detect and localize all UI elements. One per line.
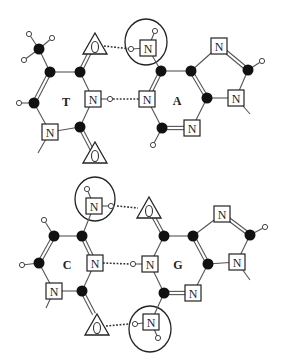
nitrogen-atom-icon: N bbox=[140, 40, 156, 56]
nitrogen-symbol: N bbox=[90, 200, 99, 214]
hydrogen-atom-icon bbox=[128, 46, 133, 51]
hydrogen-atom-icon bbox=[259, 58, 264, 63]
carbon-atom-icon bbox=[75, 67, 86, 78]
carbon-atom-icon bbox=[77, 286, 88, 297]
nitrogen-symbol: N bbox=[91, 257, 100, 271]
nitrogen-symbol: N bbox=[215, 40, 224, 54]
hydrogen-atom-icon bbox=[21, 57, 26, 62]
nitrogen-symbol: N bbox=[233, 256, 242, 270]
carbon-atom-icon bbox=[45, 67, 56, 78]
oxygen-triangle bbox=[137, 197, 161, 218]
base-labels: TACG bbox=[62, 94, 183, 272]
hydrogen-bond-dotted bbox=[104, 46, 131, 49]
hydrogen-atom-icon bbox=[49, 35, 54, 40]
hydrogen-atom-icon bbox=[262, 224, 267, 229]
base-label-T: T bbox=[62, 95, 70, 109]
carbon-atom-icon bbox=[188, 231, 199, 242]
carbon-atom-icon bbox=[157, 123, 168, 134]
carbon-atom-icon bbox=[245, 230, 256, 241]
nitrogen-atom-icon: N bbox=[184, 120, 200, 136]
base-pair-diagram: NNNNNNNNNNNNNNN TACG bbox=[0, 0, 285, 362]
nitrogen-symbol: N bbox=[218, 208, 227, 222]
nitrogen-atom-icon: N bbox=[211, 38, 227, 54]
hydrogen-bond-dotted bbox=[103, 263, 130, 264]
hydrogen-atom-icon bbox=[152, 28, 157, 33]
nitrogen-atom-icon: N bbox=[185, 285, 201, 301]
carbon-atom-icon bbox=[156, 66, 167, 77]
oxygen-triangle bbox=[83, 142, 107, 163]
carbon-atom-icon bbox=[34, 44, 45, 55]
nitrogen-atom-icon: N bbox=[214, 206, 230, 222]
hydrogen-bonds bbox=[103, 46, 140, 326]
carbon-atom-icon bbox=[186, 66, 197, 77]
hydrogen-atom-icon bbox=[41, 217, 46, 222]
nitrogen-atom-icon: N bbox=[46, 283, 62, 299]
hydrogen-atom-icon bbox=[155, 335, 160, 340]
nitrogen-symbol: N bbox=[50, 285, 59, 299]
carbon-atom-icon bbox=[29, 98, 40, 109]
nitrogen-symbol: N bbox=[89, 93, 98, 107]
nitrogen-symbol: N bbox=[189, 287, 198, 301]
nitrogen-atom-icon: N bbox=[42, 124, 58, 140]
base-label-A: A bbox=[173, 94, 182, 108]
nitrogen-symbol: N bbox=[146, 258, 155, 272]
carbon-atom-icon bbox=[75, 122, 86, 133]
nitrogen-atom-icon: N bbox=[85, 91, 101, 107]
nitrogen-symbol: N bbox=[188, 122, 197, 136]
base-label-C: C bbox=[63, 258, 72, 272]
hydrogen-bond-dotted bbox=[117, 206, 138, 208]
hydrogen-atom-icon bbox=[26, 31, 31, 36]
nitrogen-atom-icon: N bbox=[86, 198, 102, 214]
hydrogen-atom-icon bbox=[150, 142, 155, 147]
carbon-atom-icon bbox=[77, 231, 88, 242]
carbon-atom-icon bbox=[203, 259, 214, 270]
nitrogen-symbol: N bbox=[46, 126, 55, 140]
hydrogen-atom-icon bbox=[16, 100, 21, 105]
base-label-G: G bbox=[173, 258, 182, 272]
oxygen-triangle bbox=[83, 33, 107, 54]
nitrogen-atom-icon: N bbox=[142, 256, 158, 272]
oxygen-atom-icon bbox=[83, 33, 107, 54]
carbon-atom-icon bbox=[34, 258, 45, 269]
hydrogen-bond-dotted bbox=[106, 324, 129, 326]
nitrogen-atom-icon: N bbox=[87, 255, 103, 271]
oxygen-atom-icon bbox=[83, 142, 107, 163]
carbon-atom-icon bbox=[159, 288, 170, 299]
carbon-atom-icon bbox=[243, 65, 254, 76]
carbon-atom-icon bbox=[49, 231, 60, 242]
oxygen-atom-icon bbox=[85, 314, 109, 335]
atoms: NNNNNNNNNNNNNNN bbox=[16, 28, 267, 340]
nitrogen-atom-icon: N bbox=[228, 90, 244, 106]
oxygen-triangle bbox=[85, 314, 109, 335]
hydrogen-atom-icon bbox=[130, 261, 135, 266]
nitrogen-symbol: N bbox=[144, 42, 153, 56]
hydrogen-atom-icon bbox=[107, 96, 112, 101]
hydrogen-atom-icon bbox=[132, 321, 137, 326]
carbon-atom-icon bbox=[159, 231, 170, 242]
nitrogen-atom-icon: N bbox=[139, 91, 155, 107]
nitrogen-atom-icon: N bbox=[229, 254, 245, 270]
hydrogen-atom-icon bbox=[19, 262, 24, 267]
hydrogen-atom-icon bbox=[84, 186, 89, 191]
hydrogen-atom-icon bbox=[108, 203, 113, 208]
nitrogen-symbol: N bbox=[147, 316, 156, 330]
carbon-atom-icon bbox=[202, 93, 213, 104]
nitrogen-symbol: N bbox=[143, 93, 152, 107]
oxygen-atom-icon bbox=[137, 197, 161, 218]
nitrogen-symbol: N bbox=[232, 92, 241, 106]
nitrogen-atom-icon: N bbox=[143, 314, 159, 330]
